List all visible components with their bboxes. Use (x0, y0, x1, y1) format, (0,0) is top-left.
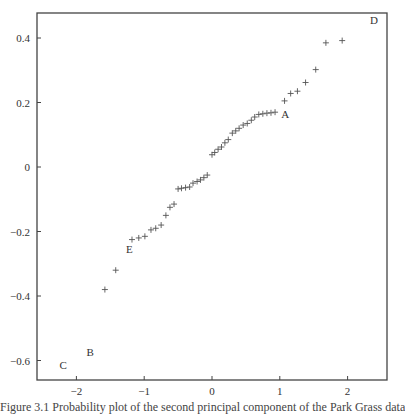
data-point-plus-marker (288, 90, 294, 96)
data-point-plus-marker (102, 287, 108, 293)
point-annotation-d: D (370, 14, 378, 26)
data-point-plus-marker (175, 186, 181, 192)
data-point-plus-marker (244, 120, 250, 126)
data-point-plus-marker (303, 80, 309, 86)
data-point-plus-marker (183, 185, 189, 191)
data-point-plus-marker (268, 110, 274, 116)
y-tick-label: −0.6 (10, 355, 30, 367)
data-point-plus-marker (294, 88, 300, 94)
y-tick-label: −0.4 (10, 290, 30, 302)
y-tick-label: 0.4 (16, 32, 30, 44)
data-point-plus-marker (225, 137, 231, 143)
data-point-plus-marker (240, 122, 246, 128)
data-point-plus-marker (339, 38, 345, 44)
data-point-plus-marker (187, 184, 193, 190)
x-tick-label: 0 (209, 385, 215, 397)
data-point-plus-marker (222, 140, 228, 146)
x-tick-label: 2 (345, 385, 351, 397)
data-point-plus-marker (171, 201, 177, 207)
data-point-plus-marker (282, 98, 288, 104)
data-point-plus-marker (136, 235, 142, 241)
data-point-plus-marker (323, 40, 329, 46)
data-point-plus-marker (204, 172, 210, 178)
data-point-plus-marker (256, 111, 262, 117)
y-tick-label: −0.2 (10, 226, 30, 238)
data-point-plus-marker (248, 117, 254, 123)
point-annotation-b: B (87, 346, 94, 358)
x-tick-label: −2 (71, 385, 83, 397)
data-point-plus-marker (178, 185, 184, 191)
data-point-plus-marker (153, 225, 159, 231)
data-point-plus-marker (148, 227, 154, 233)
data-point-plus-marker (163, 212, 169, 218)
data-point-plus-marker (142, 233, 148, 239)
data-point-plus-marker (190, 180, 196, 186)
point-annotation-e: E (126, 243, 133, 255)
data-point-plus-marker (252, 114, 258, 120)
data-point-plus-marker (167, 204, 173, 210)
data-point-plus-marker (272, 109, 278, 115)
figure-caption: Figure 3.1 Probability plot of the secon… (0, 400, 403, 415)
x-tick-label: 1 (277, 385, 283, 397)
point-annotation-a: A (281, 108, 289, 120)
point-annotation-c: C (59, 359, 66, 371)
y-tick-label: 0.2 (16, 97, 30, 109)
y-tick-label: 0 (25, 161, 31, 173)
data-point-plus-marker (236, 125, 242, 131)
plot-frame (37, 13, 387, 380)
data-point-plus-marker (194, 179, 200, 185)
data-point-plus-marker (129, 237, 135, 243)
data-point-plus-marker (260, 111, 266, 117)
x-tick-label: −1 (138, 385, 150, 397)
data-point-plus-marker (313, 67, 319, 73)
data-point-plus-marker (113, 267, 119, 273)
data-point-plus-marker (158, 222, 164, 228)
